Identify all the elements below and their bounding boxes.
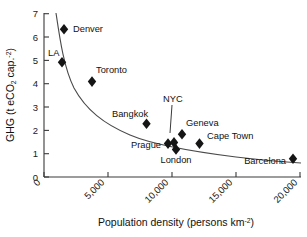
point-label-london: London <box>160 155 191 165</box>
y-tick-label-1: 1 <box>33 148 38 159</box>
x-axis-title-tail: ) <box>251 216 255 228</box>
marker-cape-town <box>195 138 203 149</box>
y-tick-label-4: 4 <box>33 78 38 89</box>
marker-bangkok <box>142 119 150 130</box>
chart-figure: 7 6 5 4 3 2 1 0 0 5,000 10,000 15,000 20… <box>0 0 307 237</box>
x-axis-title-main: Population density (persons km <box>98 216 245 228</box>
y-tick-label-2: 2 <box>33 125 38 136</box>
y-tick-label-3: 3 <box>33 102 38 113</box>
y-tick-label-7: 7 <box>33 8 38 19</box>
y-axis-title-mid: cap. <box>4 58 16 81</box>
x-tick-label-20000: 20,000 <box>271 177 299 205</box>
y-tick-label-6: 6 <box>33 32 38 43</box>
marker-denver <box>60 24 68 35</box>
point-label-nyc: NYC <box>163 94 183 104</box>
y-tick-label-5: 5 <box>33 55 38 66</box>
x-ticks <box>44 172 300 177</box>
point-label-denver: Denver <box>73 24 103 34</box>
trend-curve <box>56 13 301 163</box>
y-axis-title-pre: GHG (t eCO <box>4 84 16 142</box>
y-ticks <box>44 14 49 177</box>
y-tick-labels: 7 6 5 4 3 2 1 0 <box>33 8 38 182</box>
y-axis-title-tail: ) <box>4 48 16 52</box>
point-label-la: LA <box>48 48 60 58</box>
x-tick-label-10000: 10,000 <box>142 177 170 205</box>
x-tick-label-15000: 15,000 <box>206 177 234 205</box>
marker-geneva <box>178 129 186 140</box>
y-axis-title: GHG (t eCO2 cap.-2) <box>4 48 17 142</box>
point-label-barcelona: Barcelona <box>244 156 287 166</box>
point-label-cape-town: Cape Town <box>207 131 253 141</box>
x-axis-title: Population density (persons km-2) <box>98 216 254 228</box>
x-tick-labels: 0 5,000 10,000 15,000 20,000 <box>31 177 300 205</box>
point-label-toronto: Toronto <box>96 65 127 75</box>
marker-toronto <box>88 76 96 87</box>
marker-la <box>58 57 66 68</box>
point-label-bangkok: Bangkok <box>112 109 149 119</box>
point-label-geneva: Geneva <box>186 118 219 128</box>
x-tick-label-5000: 5,000 <box>82 177 107 202</box>
scatter-plot: 7 6 5 4 3 2 1 0 0 5,000 10,000 15,000 20… <box>0 0 307 237</box>
nyc-leader-line <box>170 105 172 133</box>
point-label-prague: Prague <box>131 140 161 150</box>
